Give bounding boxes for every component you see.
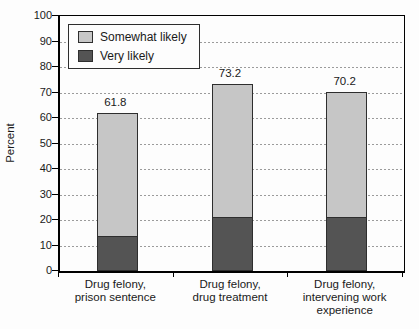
y-tick-mark	[52, 143, 58, 144]
x-tick-mark	[287, 272, 288, 277]
y-tick-label: 30	[14, 188, 52, 200]
legend: Somewhat likelyVery likely	[68, 24, 200, 69]
y-tick-label: 100	[14, 9, 52, 21]
legend-entry: Somewhat likely	[78, 30, 187, 44]
segment-very-likely	[327, 217, 366, 270]
y-tick-mark	[52, 117, 58, 118]
y-tick-label: 90	[14, 35, 52, 47]
bar-value-label: 61.8	[85, 96, 145, 109]
segment-somewhat-likely	[213, 85, 252, 217]
y-tick-label: 70	[14, 86, 52, 98]
category-label: Drug felony, drug treatment	[165, 278, 295, 304]
y-tick-mark	[52, 219, 58, 220]
legend-swatch	[78, 31, 93, 43]
y-tick-mark	[52, 66, 58, 67]
y-tick-label: 60	[14, 111, 52, 123]
y-tick-label: 50	[14, 137, 52, 149]
stacked-bar	[97, 113, 138, 271]
legend-swatch	[78, 50, 93, 62]
x-tick-mark	[402, 272, 403, 277]
x-tick-mark	[173, 272, 174, 277]
stacked-bar-chart-figure: Percent Somewhat likelyVery likely 01020…	[0, 0, 419, 329]
category-label: Drug felony, prison sentence	[50, 278, 180, 304]
y-tick-label: 10	[14, 239, 52, 251]
y-tick-mark	[52, 168, 58, 169]
legend-label: Very likely	[100, 49, 154, 63]
bar-value-label: 70.2	[315, 75, 375, 88]
segment-very-likely	[98, 236, 137, 270]
y-tick-mark	[52, 15, 58, 16]
category-label: Drug felony, intervening work experience	[280, 278, 410, 317]
x-tick-mark	[58, 272, 59, 277]
segment-somewhat-likely	[98, 114, 137, 236]
segment-somewhat-likely	[327, 93, 366, 217]
segment-very-likely	[213, 217, 252, 270]
bar-value-label: 73.2	[200, 67, 260, 80]
y-tick-mark	[52, 41, 58, 42]
y-tick-mark	[52, 245, 58, 246]
stacked-bar	[326, 92, 367, 271]
y-tick-mark	[52, 194, 58, 195]
legend-entry: Very likely	[78, 49, 187, 63]
y-tick-label: 80	[14, 60, 52, 72]
y-tick-mark	[52, 270, 58, 271]
y-tick-label: 40	[14, 162, 52, 174]
y-tick-label: 0	[14, 264, 52, 276]
y-tick-label: 20	[14, 213, 52, 225]
stacked-bar	[212, 84, 253, 271]
legend-label: Somewhat likely	[100, 30, 187, 44]
plot-area: Somewhat likelyVery likely	[58, 15, 405, 273]
y-tick-mark	[52, 92, 58, 93]
